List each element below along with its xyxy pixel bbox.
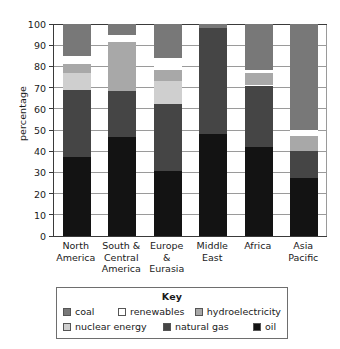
bar-group[interactable] — [199, 24, 227, 236]
bar-group[interactable] — [245, 24, 273, 236]
legend-item[interactable]: renewables — [118, 306, 195, 317]
bar-segment[interactable] — [290, 151, 318, 178]
bar-segment[interactable] — [154, 171, 182, 236]
plot-area: 0102030405060708090100 — [53, 24, 327, 237]
x-axis-label: Africa — [235, 240, 281, 252]
y-tick-label-80: 80 — [16, 61, 46, 72]
legend-swatch-icon — [118, 308, 126, 316]
x-axis-label: AsiaPacific — [281, 240, 327, 263]
legend-swatch-icon — [195, 308, 203, 316]
bar-segment[interactable] — [245, 86, 273, 147]
legend-item[interactable]: oil — [253, 321, 276, 332]
y-tick-label-70: 70 — [16, 82, 46, 93]
legend-swatch-icon — [253, 323, 261, 331]
legend-item[interactable]: hydroelectricity — [195, 306, 281, 317]
legend-row-2: nuclear energynatural gasoil — [57, 321, 287, 332]
bar-segment[interactable] — [108, 91, 136, 138]
y-tick-label-40: 40 — [16, 146, 46, 157]
bar-segment[interactable] — [108, 35, 136, 42]
bar-segment[interactable] — [290, 24, 318, 130]
bar-group[interactable] — [63, 24, 91, 236]
bar-group[interactable] — [108, 24, 136, 236]
x-axis-label: NorthAmerica — [53, 240, 99, 263]
bar-segment[interactable] — [154, 58, 182, 70]
stacked-bar-chart: percentage 0102030405060708090100 NorthA… — [0, 0, 340, 349]
legend-swatch-icon — [163, 323, 171, 331]
bar-segment[interactable] — [199, 28, 227, 134]
bar-segment[interactable] — [154, 24, 182, 58]
bar-group[interactable] — [290, 24, 318, 236]
legend-swatch-icon — [63, 308, 71, 316]
y-tick-label-100: 100 — [16, 19, 46, 30]
legend-item-label: nuclear energy — [75, 321, 147, 332]
y-tick-label-0: 0 — [16, 231, 46, 242]
legend-item-label: renewables — [130, 306, 184, 317]
legend-swatch-icon — [63, 323, 71, 331]
x-axis-label: MiddleEast — [190, 240, 236, 263]
bar-group[interactable] — [154, 24, 182, 236]
legend-title: Key — [57, 291, 287, 302]
y-tick-label-10: 10 — [16, 209, 46, 220]
bar-segment[interactable] — [290, 178, 318, 236]
bar-segment[interactable] — [245, 73, 273, 86]
y-tick-label-50: 50 — [16, 125, 46, 136]
bar-segment[interactable] — [154, 70, 182, 82]
y-tick-label-20: 20 — [16, 188, 46, 199]
y-tick-label-60: 60 — [16, 103, 46, 114]
legend-item-label: oil — [265, 321, 276, 332]
bar-segment[interactable] — [245, 147, 273, 236]
legend-row-1: coalrenewableshydroelectricity — [57, 306, 287, 317]
x-axis-label: South &CentralAmerica — [99, 240, 145, 275]
legend-item[interactable]: natural gas — [163, 321, 253, 332]
bar-segment[interactable] — [63, 90, 91, 157]
bar-segment[interactable] — [245, 70, 273, 73]
legend-item-label: coal — [75, 306, 95, 317]
bar-segment[interactable] — [63, 157, 91, 237]
legend-item-label: hydroelectricity — [207, 306, 281, 317]
legend-item[interactable]: nuclear energy — [63, 321, 163, 332]
bar-segment[interactable] — [63, 64, 91, 72]
legend-item[interactable]: coal — [63, 306, 118, 317]
legend: Key coalrenewableshydroelectricity nucle… — [56, 287, 288, 339]
bar-segment[interactable] — [108, 42, 136, 91]
bar-segment[interactable] — [154, 104, 182, 172]
bar-segment[interactable] — [108, 137, 136, 236]
bar-segment[interactable] — [290, 130, 318, 136]
bar-segment[interactable] — [108, 24, 136, 35]
bars-layer — [54, 24, 327, 236]
y-tick-label-30: 30 — [16, 167, 46, 178]
bar-segment[interactable] — [63, 56, 91, 64]
bar-segment[interactable] — [245, 24, 273, 70]
x-axis-label: Europe&Eurasia — [144, 240, 190, 275]
bar-segment[interactable] — [199, 134, 227, 236]
bar-segment[interactable] — [290, 136, 318, 151]
bar-segment[interactable] — [63, 24, 91, 56]
bar-segment[interactable] — [199, 24, 227, 28]
bar-segment[interactable] — [154, 81, 182, 103]
y-tick-label-90: 90 — [16, 40, 46, 51]
bar-segment[interactable] — [63, 73, 91, 90]
x-axis-labels: NorthAmericaSouth &CentralAmericaEurope&… — [53, 240, 326, 284]
legend-item-label: natural gas — [175, 321, 229, 332]
